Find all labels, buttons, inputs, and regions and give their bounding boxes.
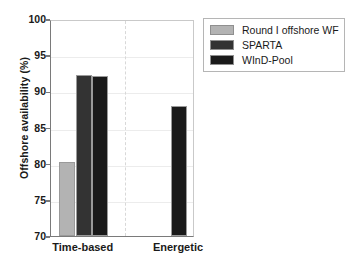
y-tick-label: 90 xyxy=(6,86,46,97)
y-tick-label: 75 xyxy=(6,195,46,206)
bar-round-i-offshore-wf-time-based xyxy=(59,162,75,237)
legend-swatch-wind-pool xyxy=(210,55,234,65)
bar-chart-figure: Offshore availability (%) 70758085909510… xyxy=(0,0,347,263)
plot-area xyxy=(50,20,194,237)
legend-item-round-i-offshore-wf: Round I offshore WF xyxy=(210,24,339,36)
y-tick-label: 80 xyxy=(6,159,46,170)
bar-sparta-time-based xyxy=(76,75,92,236)
gridline xyxy=(51,93,193,94)
y-tick-label: 85 xyxy=(6,123,46,134)
gridline xyxy=(51,57,193,58)
bar-wind-pool-energetic xyxy=(171,106,187,236)
legend-item-wind-pool: WInD-Pool xyxy=(210,54,339,66)
bar-wind-pool-time-based xyxy=(92,76,108,236)
legend-swatch-sparta xyxy=(210,40,234,50)
category-divider xyxy=(125,21,126,236)
x-tick-label-energetic: Energetic xyxy=(128,241,228,253)
legend-swatch-round-i-offshore-wf xyxy=(210,25,234,35)
legend-label-wind-pool: WInD-Pool xyxy=(242,54,293,66)
legend-item-sparta: SPARTA xyxy=(210,39,339,51)
y-tick-label: 95 xyxy=(6,50,46,61)
legend-label-round-i-offshore-wf: Round I offshore WF xyxy=(242,24,339,36)
y-tick-label: 70 xyxy=(6,231,46,242)
x-tick-label-time-based: Time-based xyxy=(33,241,133,253)
legend-label-sparta: SPARTA xyxy=(242,39,282,51)
chart-legend: Round I offshore WF SPARTA WInD-Pool xyxy=(203,18,345,72)
y-tick-label: 100 xyxy=(6,14,46,25)
